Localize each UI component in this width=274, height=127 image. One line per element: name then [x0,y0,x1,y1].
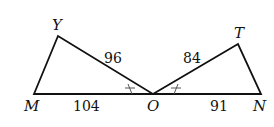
length-yo: 96 [104,50,122,66]
congruent-angle-marks [125,84,181,94]
point-label-o: O [147,97,159,115]
length-to: 84 [183,50,201,66]
point-label-y: Y [52,16,64,34]
two-triangles-diagram: Y M O T N 96 84 104 91 [0,0,274,127]
point-label-m: M [23,97,40,115]
angle-mark-ton [174,84,178,94]
length-mo: 104 [73,98,100,114]
triangle-myo [34,36,153,94]
point-label-n: N [252,97,267,115]
point-label-t: T [234,24,245,42]
triangle-otn [153,44,261,94]
angle-mark-yom [128,84,132,94]
triangle-lines [34,36,261,94]
length-on: 91 [210,98,228,114]
